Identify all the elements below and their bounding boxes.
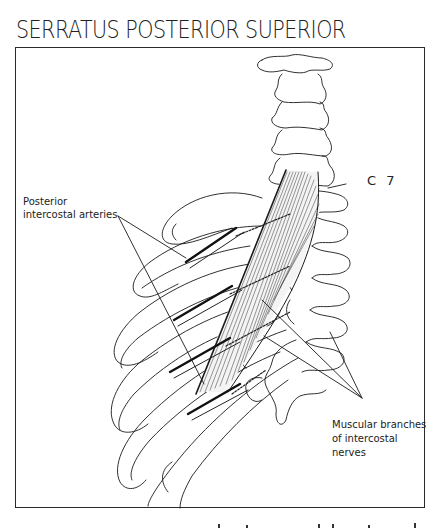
label-muscular-branches-line2: of intercostal [332, 432, 398, 445]
label-c7-vertebra: C 7 [367, 174, 397, 187]
anatomical-illustration [0, 0, 438, 528]
label-muscular-branches-line1: Muscular branches [332, 418, 426, 431]
label-posterior-intercostal-arteries-line2: intercostal arteries [23, 208, 117, 221]
label-posterior-intercostal-arteries-line1: Posterior [23, 195, 67, 208]
label-muscular-branches-line3: nerves [332, 446, 366, 459]
cropped-caption-fragment [0, 522, 438, 528]
serratus-posterior-superior-muscle [196, 170, 320, 394]
